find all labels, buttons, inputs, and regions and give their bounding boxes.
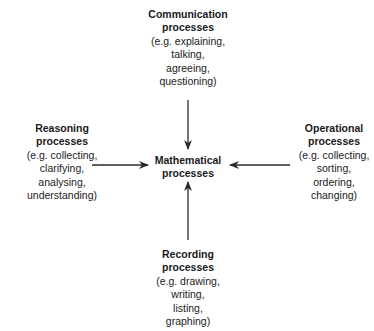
node-title: processes: [0, 135, 124, 148]
node-detail: sorting,: [290, 162, 374, 175]
node-detail: understanding): [0, 189, 124, 202]
node-reasoning-processes: Reasoning processes (e.g. collecting, cl…: [0, 122, 124, 202]
node-title: processes: [118, 21, 258, 34]
node-title: Communication: [118, 8, 258, 21]
node-title: processes: [290, 135, 374, 148]
node-detail: talking,: [118, 48, 258, 61]
node-detail: (e.g. explaining,: [118, 35, 258, 48]
node-detail: graphing): [118, 315, 258, 328]
node-recording-processes: Recording processes (e.g. drawing, writi…: [118, 248, 258, 328]
node-communication-processes: Communication processes (e.g. explaining…: [118, 8, 258, 88]
node-detail: (e.g. collecting,: [290, 149, 374, 162]
node-title: processes: [118, 261, 258, 274]
node-detail: listing,: [118, 302, 258, 315]
node-detail: questioning): [118, 75, 258, 88]
node-detail: (e.g. drawing,: [118, 275, 258, 288]
node-title: Operational: [290, 122, 374, 135]
node-operational-processes: Operational processes (e.g. collecting, …: [290, 122, 374, 202]
node-detail: changing): [290, 189, 374, 202]
node-detail: analysing,: [0, 176, 124, 189]
node-title: Reasoning: [0, 122, 124, 135]
center-title: processes: [138, 167, 238, 180]
center-title: Mathematical: [138, 154, 238, 167]
node-title: Recording: [118, 248, 258, 261]
node-detail: ordering,: [290, 176, 374, 189]
node-detail: agreeing,: [118, 62, 258, 75]
node-detail: writing,: [118, 288, 258, 301]
node-detail: (e.g. collecting,: [0, 149, 124, 162]
node-detail: clarifying,: [0, 162, 124, 175]
node-mathematical-processes: Mathematical processes: [138, 154, 238, 181]
